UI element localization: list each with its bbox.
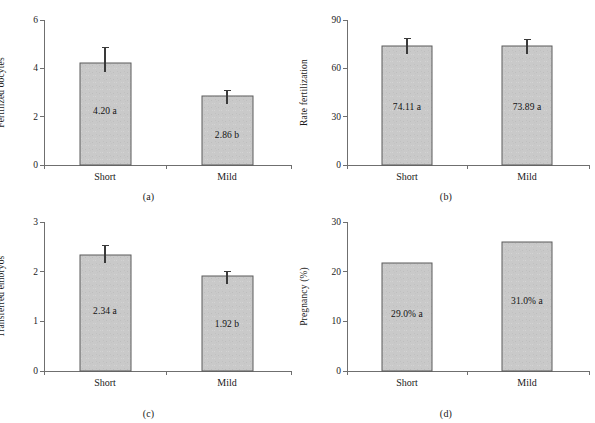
bar-data-label: 31.0% a xyxy=(511,296,543,306)
y-tick-label: 0 xyxy=(10,160,38,170)
x-tick-label: Short xyxy=(65,171,145,182)
y-tick-label: 10 xyxy=(313,316,341,326)
panel-c: (c) 0123Transferred embryosShortMild2.34… xyxy=(0,206,297,423)
y-tick-label: 20 xyxy=(313,267,341,277)
x-tick-label: Short xyxy=(65,377,145,388)
x-tick-label: Mild xyxy=(187,171,267,182)
y-tick-label: 60 xyxy=(313,63,341,73)
y-axis-label: Transferred embryos xyxy=(0,222,6,371)
chart-svg-d xyxy=(297,206,595,423)
bar-data-label: 2.86 b xyxy=(215,130,239,140)
y-tick-label: 3 xyxy=(10,217,38,227)
y-tick-label: 1 xyxy=(10,316,38,326)
bar-data-label: 1.92 b xyxy=(215,319,239,329)
y-tick-label: 2 xyxy=(10,112,38,122)
panel-caption-a: (a) xyxy=(0,191,297,202)
x-tick-label: Mild xyxy=(187,377,267,388)
bar-data-label: 29.0% a xyxy=(391,309,423,319)
chart-svg-c xyxy=(0,206,297,423)
y-tick-label: 30 xyxy=(313,112,341,122)
x-tick-label: Short xyxy=(367,377,447,388)
y-axis-label: Rate fertilization xyxy=(299,20,309,165)
x-tick-label: Mild xyxy=(487,377,567,388)
x-tick-label: Short xyxy=(367,171,447,182)
figure-four-panel-bar-charts: (a) 0246Fertilized oocytesShortMild4.20 … xyxy=(0,0,595,423)
y-tick-label: 30 xyxy=(313,217,341,227)
bar-data-label: 2.34 a xyxy=(93,306,117,316)
bar xyxy=(502,242,552,371)
panel-b: (b) 0306090Rate fertilizationShortMild74… xyxy=(297,0,595,206)
y-tick-label: 0 xyxy=(313,366,341,376)
panel-caption-d: (d) xyxy=(297,408,595,419)
panel-caption-b: (b) xyxy=(297,191,595,202)
y-tick-label: 2 xyxy=(10,267,38,277)
x-tick-label: Mild xyxy=(487,171,567,182)
panel-caption-c: (c) xyxy=(0,408,297,419)
panel-a: (a) 0246Fertilized oocytesShortMild4.20 … xyxy=(0,0,297,206)
y-tick-label: 90 xyxy=(313,15,341,25)
y-axis-label: Pregnancy (%) xyxy=(299,222,309,371)
panel-d: (d) 0102030Pregnancy (%)ShortMild29.0% a… xyxy=(297,206,595,423)
bar-data-label: 74.11 a xyxy=(393,102,421,112)
bar-data-label: 73.89 a xyxy=(513,102,542,112)
y-axis-label: Fertilized oocytes xyxy=(0,20,6,165)
y-tick-label: 4 xyxy=(10,63,38,73)
y-tick-label: 0 xyxy=(313,160,341,170)
y-tick-label: 6 xyxy=(10,15,38,25)
bar-data-label: 4.20 a xyxy=(93,106,117,116)
y-tick-label: 0 xyxy=(10,366,38,376)
